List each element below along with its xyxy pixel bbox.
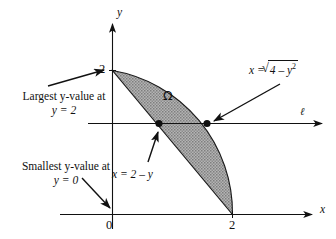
label-right-curve-equation: x = 4 – y2 √ bbox=[249, 60, 298, 77]
callout-smallest-y-value: Smallest y-value at y = 0 bbox=[2, 160, 130, 187]
callout-largest-y-line2: y = 2 bbox=[4, 104, 124, 118]
label-left-curve-equation: x = 2 – y bbox=[112, 168, 153, 182]
x-axis-label: x bbox=[320, 203, 325, 217]
arrow-right-curve bbox=[214, 84, 280, 121]
radical-icon: 4 – y2 √ bbox=[268, 60, 298, 77]
region-diagram bbox=[0, 0, 336, 239]
cross-section-label: ℓ bbox=[300, 106, 304, 118]
region-label-omega: Ω bbox=[163, 89, 173, 104]
callout-smallest-y-line1: Smallest y-value at bbox=[2, 160, 130, 174]
y-tick-2: 2 bbox=[99, 62, 105, 77]
callout-largest-y-line1: Largest y-value at bbox=[4, 90, 124, 104]
y-axis-label: y bbox=[117, 6, 122, 20]
right-curve-exponent: 2 bbox=[292, 62, 296, 71]
point-left-boundary bbox=[155, 120, 162, 127]
arrow-left-curve bbox=[148, 132, 158, 162]
arrow-largest-y bbox=[48, 70, 104, 86]
right-curve-radicand: 4 – y bbox=[270, 64, 292, 76]
callout-smallest-y-line2: y = 0 bbox=[2, 174, 130, 188]
point-right-boundary bbox=[203, 120, 210, 127]
x-tick-2: 2 bbox=[229, 218, 235, 233]
origin-tick-0: 0 bbox=[106, 218, 112, 233]
callout-largest-y-value: Largest y-value at y = 2 bbox=[4, 90, 124, 117]
